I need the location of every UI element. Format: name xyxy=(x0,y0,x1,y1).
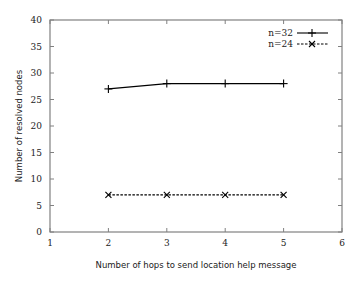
y-tick-label: 35 xyxy=(31,42,43,52)
legend-label: n=24 xyxy=(268,39,293,49)
legend-item: n=32 xyxy=(268,28,328,38)
y-axis: 0510152025303540 xyxy=(31,15,342,237)
y-tick-label: 40 xyxy=(31,15,43,25)
line-chart: 0510152025303540 123456 n=32n=24 Number … xyxy=(0,0,360,283)
x-tick-label: 1 xyxy=(47,238,53,248)
x-axis: 123456 xyxy=(47,20,345,248)
data-point xyxy=(163,80,171,88)
data-point xyxy=(222,192,228,198)
series-n-32 xyxy=(104,80,287,93)
x-tick-label: 6 xyxy=(339,238,345,248)
y-tick-label: 15 xyxy=(31,148,43,158)
x-tick-label: 4 xyxy=(222,238,228,248)
legend-label: n=32 xyxy=(268,28,293,38)
y-tick-label: 20 xyxy=(31,121,43,131)
y-tick-label: 5 xyxy=(36,201,42,211)
y-axis-label: Number of resolved nodes xyxy=(14,69,24,182)
y-tick-label: 10 xyxy=(31,174,43,184)
y-tick-label: 30 xyxy=(31,68,43,78)
legend: n=32n=24 xyxy=(268,28,328,49)
plot-frame xyxy=(50,20,342,232)
data-point xyxy=(221,80,229,88)
y-tick-label: 25 xyxy=(31,95,43,105)
x-tick-label: 5 xyxy=(281,238,287,248)
series-line xyxy=(108,84,283,89)
series-layer xyxy=(104,80,287,198)
series-n-24 xyxy=(105,192,286,198)
plot-border xyxy=(50,20,342,232)
x-axis-label: Number of hops to send location help mes… xyxy=(96,260,297,270)
x-tick-label: 2 xyxy=(106,238,112,248)
data-point xyxy=(104,85,112,93)
y-tick-label: 0 xyxy=(36,227,42,237)
data-point xyxy=(280,80,288,88)
legend-item: n=24 xyxy=(268,39,328,49)
x-tick-label: 3 xyxy=(164,238,170,248)
